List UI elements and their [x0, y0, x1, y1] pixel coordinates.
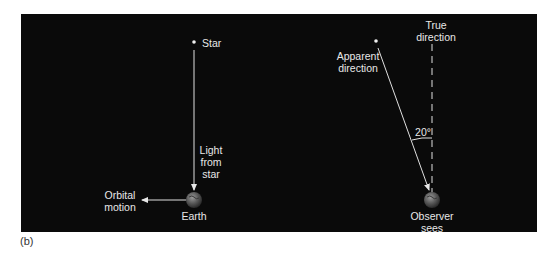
star-icon: [192, 40, 196, 44]
light-label-line2: from: [196, 156, 226, 168]
orbital-label-line2: motion: [100, 201, 140, 213]
observer-sees-label: Observer sees: [406, 210, 458, 234]
apparent-label-line1: Apparent: [330, 50, 386, 62]
orbital-label-line1: Orbital: [100, 189, 140, 201]
star-label: Star: [202, 37, 221, 49]
apparent-direction-label: Apparent direction: [330, 50, 386, 74]
light-label-line1: Light: [196, 144, 226, 156]
angle-label: 20°: [412, 126, 434, 138]
earth-icon: [186, 192, 202, 208]
left-diagram: [142, 40, 202, 208]
true-label-line1: True: [408, 19, 464, 31]
observer-earth-icon: [424, 192, 440, 208]
orbital-motion-label: Orbital motion: [100, 189, 140, 213]
observer-label-line2: sees: [406, 222, 458, 234]
angle-arc: [412, 138, 432, 140]
apparent-label-line2: direction: [330, 62, 386, 74]
light-from-star-label: Light from star: [196, 144, 226, 180]
observer-label-line1: Observer: [406, 210, 458, 222]
true-direction-label: True direction: [408, 19, 464, 43]
true-label-line2: direction: [408, 31, 464, 43]
panel-label: (b): [20, 235, 33, 247]
earth-label: Earth: [176, 210, 212, 222]
aberration-diagram: [0, 0, 551, 257]
light-label-line3: star: [196, 168, 226, 180]
apparent-star-icon: [374, 39, 378, 43]
